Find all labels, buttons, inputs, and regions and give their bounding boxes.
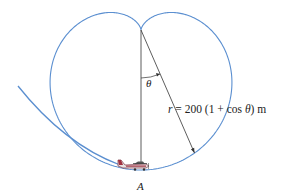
- theta-arc-arrowhead: [156, 73, 160, 77]
- diagram-canvas: [0, 0, 282, 196]
- approach-path: [18, 86, 120, 165]
- radius-line: [141, 30, 195, 153]
- airplane-icon: [118, 160, 149, 171]
- theta-label: θ: [146, 77, 151, 89]
- equation-label: r = 200 (1 + cos θ) m: [168, 103, 266, 115]
- equation-rest: = 200 (1 + cos: [172, 103, 244, 115]
- equation-end: ) m: [251, 103, 267, 115]
- point-a-label: A: [137, 180, 144, 192]
- radius-arrowhead: [191, 148, 195, 153]
